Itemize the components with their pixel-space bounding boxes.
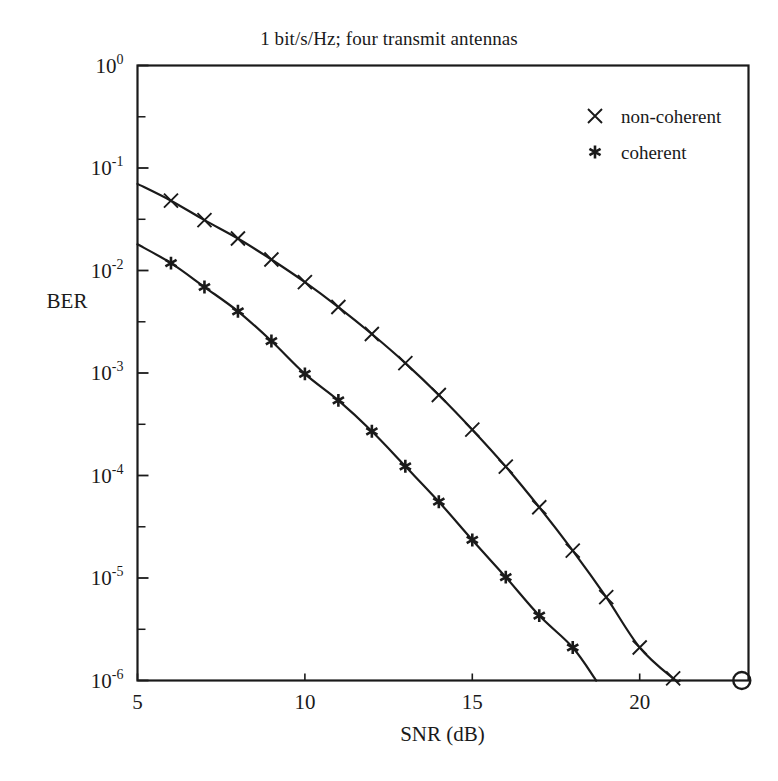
y-tick-label-1e-3: 10-3 xyxy=(91,359,124,385)
data-point-non-coherent-10dB xyxy=(298,275,312,289)
y-tick-label-1e-5: 10-5 xyxy=(91,564,124,590)
data-point-non-coherent-6dB xyxy=(164,194,178,208)
legend-marker-coherent xyxy=(589,146,600,159)
y-tick-label-1e-2: 10-2 xyxy=(91,257,124,283)
legend-label-non-coherent: non-coherent xyxy=(621,106,722,127)
data-series-layer xyxy=(138,184,681,685)
data-point-non-coherent-16dB xyxy=(499,460,513,474)
plot-area: 5101520 10010-110-210-310-410-510-6 non-… xyxy=(0,0,778,781)
x-tick-label-20: 20 xyxy=(629,690,650,714)
data-point-non-coherent-19dB xyxy=(599,590,613,604)
data-point-non-coherent-18dB xyxy=(566,544,580,558)
data-point-non-coherent-13dB xyxy=(398,356,412,370)
series-line-non-coherent xyxy=(138,184,680,682)
x-tick-label-5: 5 xyxy=(132,690,143,714)
data-point-non-coherent-20dB xyxy=(633,640,647,654)
data-point-non-coherent-15dB xyxy=(465,423,479,437)
data-point-non-coherent-7dB xyxy=(197,213,211,227)
data-point-non-coherent-9dB xyxy=(264,253,278,267)
data-point-coherent-7dB xyxy=(199,281,210,294)
data-point-non-coherent-21dB xyxy=(666,671,680,685)
data-point-non-coherent-12dB xyxy=(365,327,379,341)
figure-canvas: 1 bit/s/Hz; four transmit antennas BER S… xyxy=(0,0,778,781)
data-point-non-coherent-17dB xyxy=(532,500,546,514)
series-line-coherent xyxy=(138,244,597,680)
data-point-non-coherent-14dB xyxy=(432,388,446,402)
series-coherent xyxy=(138,244,597,680)
y-axis-ticks: 10010-110-210-310-410-510-6 xyxy=(91,52,149,693)
y-tick-label-1e0: 100 xyxy=(96,52,124,78)
x-tick-label-10: 10 xyxy=(294,690,315,714)
legend-label-coherent: coherent xyxy=(621,142,687,163)
chart-legend: non-coherentcoherent xyxy=(588,106,722,163)
data-point-non-coherent-11dB xyxy=(331,300,345,314)
legend-marker-non-coherent xyxy=(588,109,602,123)
y-tick-label-1e-6: 10-6 xyxy=(91,667,124,693)
y-tick-label-1e-1: 10-1 xyxy=(91,154,124,180)
series-non-coherent xyxy=(138,184,681,685)
data-point-coherent-6dB xyxy=(165,257,176,270)
x-tick-label-15: 15 xyxy=(462,690,483,714)
y-tick-label-1e-4: 10-4 xyxy=(91,462,124,488)
data-point-non-coherent-8dB xyxy=(231,232,245,246)
